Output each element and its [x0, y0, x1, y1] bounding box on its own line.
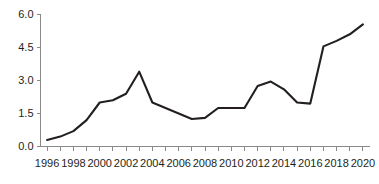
- x-tick-label: 2012: [245, 157, 269, 169]
- y-axis: [37, 15, 41, 147]
- x-tick-label: 2002: [114, 157, 138, 169]
- x-tick-label: 2010: [219, 157, 243, 169]
- x-tick-label: 2018: [324, 157, 348, 169]
- x-tick-label: 2008: [193, 157, 217, 169]
- y-tick-label: 0.0: [18, 140, 33, 152]
- x-tick-label: 2004: [140, 157, 164, 169]
- x-tick-label: 2006: [166, 157, 190, 169]
- data-series-group: [47, 24, 363, 139]
- x-tick-label: 2000: [87, 157, 111, 169]
- y-tick-label: 1.5: [18, 107, 33, 119]
- data-series-line: [47, 24, 363, 139]
- x-tick-label: 2020: [351, 157, 375, 169]
- chart-canvas: 0.01.53.04.56.0 199619982000200220042006…: [0, 0, 379, 184]
- y-tick-label: 4.5: [18, 41, 33, 53]
- x-tick-label: 2016: [298, 157, 322, 169]
- x-axis-tick-labels: 1996199820002002200420062008201020122014…: [35, 157, 375, 169]
- line-chart: 0.01.53.04.56.0 199619982000200220042006…: [0, 0, 379, 184]
- y-tick-label: 6.0: [18, 8, 33, 20]
- x-tick-label: 1998: [61, 157, 85, 169]
- y-tick-label: 3.0: [18, 74, 33, 86]
- x-tick-label: 2014: [272, 157, 296, 169]
- x-axis: [41, 147, 370, 151]
- y-axis-tick-labels: 0.01.53.04.56.0: [18, 8, 33, 152]
- x-tick-label: 1996: [35, 157, 59, 169]
